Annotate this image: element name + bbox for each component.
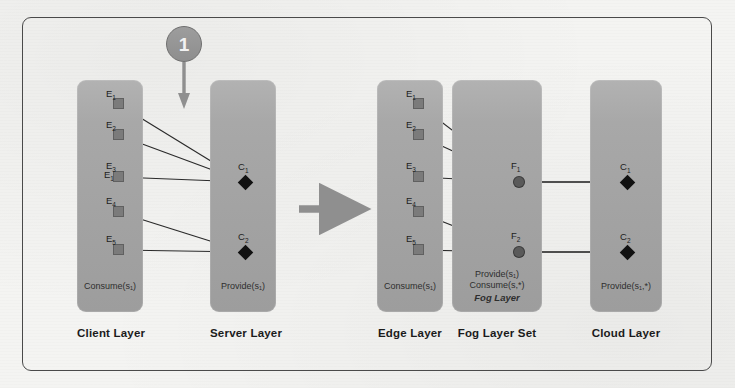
node-caption-E4r: E4 — [406, 195, 416, 208]
server-layer-column[interactable]: C1 C2 Provide(s₁) Server Layer — [210, 80, 276, 355]
node-caption-C2r: C2 — [620, 231, 631, 244]
step-1-badge: 1 — [166, 26, 202, 62]
node-caption-E4: E4 — [106, 195, 116, 208]
cloud-layer-column[interactable]: C1 C2 Provide(s₁,*) Cloud Layer — [590, 80, 662, 355]
step-badge-label: 1 — [179, 35, 190, 54]
fog-layer-set-column[interactable]: F1 F2 Provide(s₁) Consume(s,*) Fog Layer… — [452, 80, 542, 355]
server-layer-caption: Server Layer — [210, 327, 276, 339]
node-F2[interactable] — [513, 246, 525, 258]
node-caption-E1: E1 — [106, 88, 116, 101]
node-F1[interactable] — [513, 176, 525, 188]
edge-layer-caption: Edge Layer — [377, 327, 443, 339]
node-caption-E3: E3 — [106, 160, 116, 173]
node-caption-F1: F1 — [511, 160, 520, 173]
fog-layer-set-caption: Fog Layer Set — [452, 327, 542, 339]
node-caption-E1r: E1 — [406, 88, 416, 101]
node-caption-C2: C2 — [238, 231, 249, 244]
node-caption-C1r: C1 — [620, 161, 631, 174]
server-layer-note: Provide(s₁) — [210, 281, 276, 293]
fog-layer-note-provide: Provide(s₁) — [452, 269, 542, 281]
node-caption-F2: F2 — [511, 230, 520, 243]
fog-layer-note-name: Fog Layer — [452, 292, 542, 304]
cloud-layer-caption: Cloud Layer — [590, 327, 662, 339]
node-caption-E3r: E3 — [406, 160, 416, 173]
edge-layer-column[interactable]: E1 E2 E3 E4 E5 Consume(s₁) Edge Layer — [377, 80, 443, 355]
cloud-layer-box — [590, 80, 662, 312]
node-caption-C1: C1 — [238, 161, 249, 174]
node-caption-E5r: E5 — [406, 233, 416, 246]
client-layer-caption: Client Layer — [77, 327, 143, 339]
node-caption-E2r: E2 — [406, 119, 416, 132]
client-layer-column[interactable]: E1 E1 E2 E3 E4 E5 Consume(s₁) Client Lay… — [77, 80, 143, 355]
edge-layer-note: Consume(s₁) — [377, 281, 443, 293]
server-layer-box — [210, 80, 276, 312]
cloud-layer-note: Provide(s₁,*) — [590, 281, 662, 293]
fog-layer-note-consume: Consume(s,*) — [452, 280, 542, 292]
node-caption-E2: E2 — [106, 119, 116, 132]
node-caption-E5: E5 — [106, 233, 116, 246]
client-layer-note: Consume(s₁) — [77, 281, 143, 293]
